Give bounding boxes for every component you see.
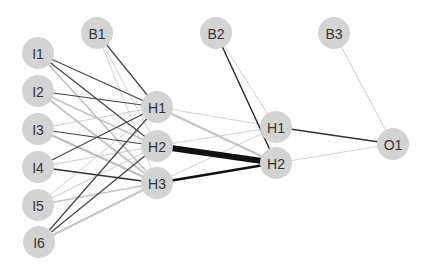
node-label: I1 [32,46,44,62]
node-label: I5 [32,198,44,214]
node-label: I2 [32,84,44,100]
edges-group [38,33,393,242]
node-i4: I4 [22,151,54,183]
edge-b2-h1b [216,33,276,127]
node-b1: B1 [81,17,113,49]
node-label: I3 [32,122,44,138]
node-i5: I5 [22,189,54,221]
edge-h1b-o1 [276,127,393,144]
node-label: H1 [267,120,285,136]
node-label: I4 [32,160,44,176]
node-label: H3 [148,176,166,192]
node-h1b: H1 [260,111,292,143]
node-label: O1 [384,137,403,153]
node-h1a: H1 [141,91,173,123]
node-label: I6 [33,235,45,251]
node-label: B1 [88,26,105,42]
node-i3: I3 [22,113,54,145]
node-label: H2 [267,156,285,172]
node-i2: I2 [22,75,54,107]
edge-h2a-h1b [157,127,276,146]
node-i1: I1 [22,37,54,69]
node-label: B3 [325,26,342,42]
edge-h2b-o1 [276,144,393,163]
node-h2b: H2 [260,147,292,179]
neural-network-diagram: I1I2I3I4I5I6B1H1H2H3B2H1H2B3O1 [0,0,426,265]
node-b2: B2 [200,17,232,49]
node-h2a: H2 [141,130,173,162]
edge-b2-h2b [216,33,276,163]
node-label: H2 [148,139,166,155]
edge-i6-h3a [39,183,157,242]
node-label: B2 [207,26,224,42]
edge-b3-o1 [334,33,393,144]
node-i6: I6 [23,226,55,258]
node-label: H1 [148,100,166,116]
node-o1: O1 [377,128,409,160]
edge-h3a-h2b [157,163,276,183]
node-b3: B3 [318,17,350,49]
node-h3a: H3 [141,167,173,199]
edge-i6-h2a [39,146,157,242]
edge-b1-h2a [97,33,157,146]
